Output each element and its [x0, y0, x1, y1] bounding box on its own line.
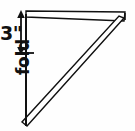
arrowhead-up-icon: [17, 10, 25, 18]
fold-label: fold: [13, 19, 33, 75]
hypotenuse-outline: [22, 16, 124, 126]
top-flap-band: [26, 11, 125, 21]
hypotenuse-band: [22, 16, 124, 126]
top-flap-outline: [26, 11, 125, 21]
fold-diagram-figure: 3" fold: [0, 0, 135, 131]
